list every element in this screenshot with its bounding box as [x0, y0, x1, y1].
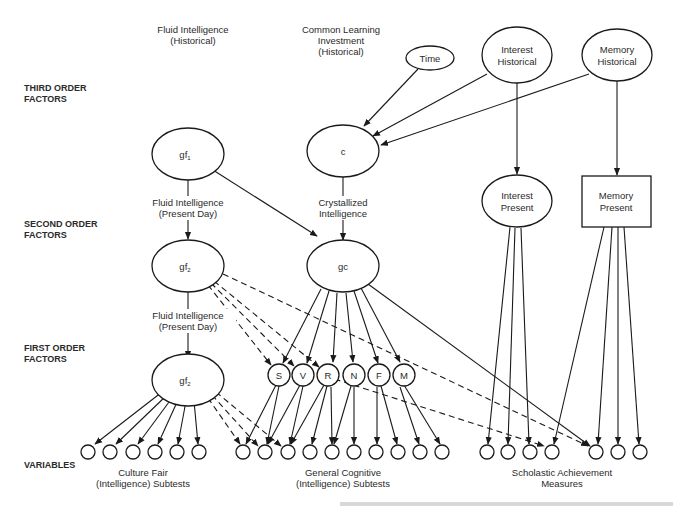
edge-label-fluid-present-1: Fluid Intelligence (Present Day): [140, 196, 236, 220]
node-interest-historical: Interest Historical: [482, 27, 552, 83]
variables-culture-fair: [81, 445, 206, 459]
svg-text:FACTORS: FACTORS: [24, 230, 67, 240]
svg-text:Culture Fair: Culture Fair: [118, 467, 168, 478]
group-label-scholastic: Scholastic Achievement Measures: [512, 467, 613, 489]
svg-text:Fluid Intelligence: Fluid Intelligence: [152, 310, 223, 321]
node-gf2: gf2: [152, 240, 224, 292]
svg-text:R: R: [325, 370, 332, 381]
svg-text:Historical: Historical: [597, 56, 636, 67]
svg-text:Common Learning: Common Learning: [302, 24, 380, 35]
node-time: Time: [406, 46, 454, 70]
node-gf1: gf1: [152, 128, 224, 180]
svg-text:Memory: Memory: [600, 44, 635, 55]
variables-general-cognitive: [236, 445, 449, 459]
svg-text:(Historical): (Historical): [318, 46, 363, 57]
svg-text:(Present Day): (Present Day): [159, 208, 218, 219]
node-gf2-first-order: gf2: [152, 354, 224, 406]
svg-text:S: S: [276, 370, 282, 381]
svg-text:General Cognitive: General Cognitive: [305, 467, 381, 478]
node-primary-f: F: [368, 364, 390, 386]
svg-text:Memory: Memory: [599, 190, 634, 201]
svg-text:Fluid Intelligence: Fluid Intelligence: [152, 197, 223, 208]
level-label-second-order: SECOND ORDER FACTORS: [24, 219, 98, 240]
node-primary-m: M: [393, 364, 415, 386]
svg-text:Present: Present: [600, 202, 633, 213]
node-primary-n: N: [343, 364, 365, 386]
header-common-learning: Common Learning Investment (Historical): [302, 24, 380, 57]
svg-text:FIRST ORDER: FIRST ORDER: [24, 343, 86, 353]
node-gc: gc: [307, 240, 379, 292]
node-interest-present: Interest Present: [482, 175, 552, 227]
group-label-general-cognitive: General Cognitive (Intelligence) Subtest…: [296, 467, 390, 489]
variables-scholastic: [480, 445, 647, 459]
node-memory-historical: Memory Historical: [582, 29, 652, 81]
factor-model-diagram: THIRD ORDER FACTORS SECOND ORDER FACTORS…: [0, 0, 673, 506]
cutoff-caption-fragment: [340, 502, 673, 506]
svg-text:Historical: Historical: [497, 56, 536, 67]
svg-text:V: V: [300, 370, 307, 381]
svg-text:(Historical): (Historical): [170, 35, 215, 46]
svg-text:Crystallized: Crystallized: [318, 197, 367, 208]
node-c: c: [307, 125, 379, 177]
edge-label-fluid-present-2: Fluid Intelligence (Present Day): [140, 309, 236, 333]
header-fluid-historical: Fluid Intelligence (Historical): [157, 24, 228, 46]
svg-text:Interest: Interest: [501, 44, 533, 55]
svg-text:THIRD ORDER: THIRD ORDER: [24, 83, 87, 93]
svg-text:N: N: [351, 370, 358, 381]
svg-text:c: c: [341, 146, 346, 157]
svg-text:M: M: [400, 370, 408, 381]
svg-text:Present: Present: [501, 202, 534, 213]
node-primary-s: S: [268, 364, 290, 386]
svg-text:F: F: [376, 370, 382, 381]
svg-text:FACTORS: FACTORS: [24, 354, 67, 364]
edge-label-crystallized: Crystallized Intelligence: [310, 196, 376, 220]
level-label-variables: VARIABLES: [24, 460, 75, 470]
svg-text:(Intelligence) Subtests: (Intelligence) Subtests: [296, 478, 390, 489]
svg-text:Measures: Measures: [541, 478, 583, 489]
level-label-third-order: THIRD ORDER FACTORS: [24, 83, 87, 104]
group-label-culture-fair: Culture Fair (Intelligence) Subtests: [96, 467, 190, 489]
svg-text:(Intelligence) Subtests: (Intelligence) Subtests: [96, 478, 190, 489]
svg-text:gc: gc: [338, 261, 348, 272]
svg-text:SECOND ORDER: SECOND ORDER: [24, 219, 98, 229]
node-primary-v: V: [292, 364, 314, 386]
svg-text:Fluid Intelligence: Fluid Intelligence: [157, 24, 228, 35]
svg-text:Scholastic Achievement: Scholastic Achievement: [512, 467, 613, 478]
node-memory-present: Memory Present: [582, 176, 651, 227]
svg-text:Time: Time: [420, 53, 441, 64]
svg-text:(Present Day): (Present Day): [159, 321, 218, 332]
svg-text:Interest: Interest: [501, 190, 533, 201]
svg-text:FACTORS: FACTORS: [24, 94, 67, 104]
node-primary-r: R: [317, 364, 339, 386]
level-label-first-order: FIRST ORDER FACTORS: [24, 343, 86, 364]
primary-factors: S V R N F M: [268, 364, 415, 386]
svg-text:Intelligence: Intelligence: [319, 208, 367, 219]
svg-text:Investment: Investment: [318, 35, 365, 46]
